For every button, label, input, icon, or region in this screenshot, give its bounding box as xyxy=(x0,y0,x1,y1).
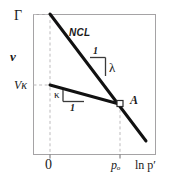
ncl-line xyxy=(50,14,146,141)
kappa-run-label: 1 xyxy=(70,103,75,113)
point-a-label: A xyxy=(130,94,138,106)
point-a-marker xyxy=(117,101,123,107)
lambda-slope-triangle xyxy=(90,58,106,77)
xtick-label-po: pₒ xyxy=(111,159,120,171)
ytick-label-gamma: Γ xyxy=(14,9,22,23)
ytick-label-vkappa: Vκ xyxy=(14,79,27,91)
kappa-slope-label: κ xyxy=(54,89,60,100)
y-axis-label: v xyxy=(10,50,16,63)
ncl-label: NCL xyxy=(69,28,90,38)
xtick-label-zero: 0 xyxy=(45,158,52,172)
x-axis-label: ln p′ xyxy=(135,159,156,171)
figure-container: v Γ Vκ NCL λ 1 κ 1 A 0 pₒ ln p′ xyxy=(0,0,169,180)
axis-ticks xyxy=(50,155,120,159)
lambda-run-label: 1 xyxy=(93,46,98,56)
lambda-slope-label: λ xyxy=(109,61,115,74)
